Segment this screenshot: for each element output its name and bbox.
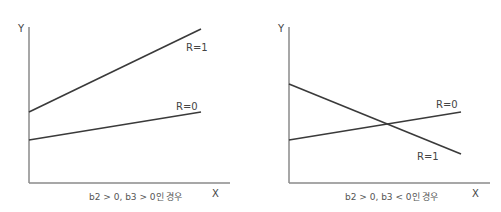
left-line-r0 <box>29 112 201 140</box>
right-chart: Y X R=0 R=1 b2 > 0, b3 < 0인 경우 <box>277 23 490 202</box>
right-x-label: X <box>472 188 479 199</box>
right-r0-label: R=0 <box>436 99 458 110</box>
right-y-label: Y <box>277 23 285 34</box>
left-r0-label: R=0 <box>176 101 198 112</box>
left-line-r1 <box>29 29 201 112</box>
right-line-r0 <box>289 112 461 140</box>
right-r1-label: R=1 <box>417 151 439 162</box>
interaction-diagrams: Y X R=1 R=0 b2 > 0, b3 > 0인 경우 Y X R=0 R… <box>0 0 501 212</box>
right-caption: b2 > 0, b3 < 0인 경우 <box>345 191 438 202</box>
left-x-label: X <box>212 188 219 199</box>
left-caption: b2 > 0, b3 > 0인 경우 <box>89 191 182 202</box>
left-r1-label: R=1 <box>186 42 208 53</box>
right-line-r1 <box>289 84 461 154</box>
left-y-label: Y <box>17 23 25 34</box>
left-chart: Y X R=1 R=0 b2 > 0, b3 > 0인 경우 <box>17 23 230 202</box>
